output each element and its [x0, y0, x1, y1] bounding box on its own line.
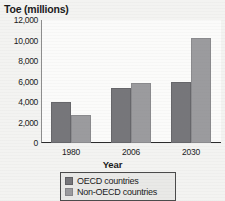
bar-group — [171, 20, 211, 143]
legend-item-oecd: OECD countries — [65, 175, 171, 186]
bar-group — [111, 20, 151, 143]
cropped-caption-sliver — [70, 0, 200, 2]
y-tick-label: 10,000 — [0, 36, 38, 46]
non-oecd-swatch-icon — [65, 188, 73, 196]
y-tick-label: 0 — [0, 138, 38, 148]
x-axis-title: Year — [0, 159, 225, 170]
y-tick-label: 8,000 — [0, 56, 38, 66]
y-tick-label: 2,000 — [0, 118, 38, 128]
x-tick-label: 2006 — [122, 147, 140, 157]
bar-oecd — [51, 102, 71, 143]
legend-label-non-oecd: Non-OECD countries — [77, 187, 157, 197]
bar-oecd — [171, 82, 191, 144]
legend-item-non-oecd: Non-OECD countries — [65, 186, 171, 197]
legend-label-oecd: OECD countries — [77, 176, 139, 186]
oecd-swatch-icon — [65, 177, 73, 185]
y-tick-label: 4,000 — [0, 97, 38, 107]
bar-non-oecd — [71, 115, 91, 143]
bar-non-oecd — [131, 83, 151, 143]
y-axis-title: Toe (millions) — [4, 3, 69, 15]
chart-legend: OECD countries Non-OECD countries — [60, 172, 176, 201]
x-tick-label: 2030 — [182, 147, 200, 157]
bar-chart: Toe (millions) 12,00010,0008,0006,0004,0… — [0, 0, 225, 201]
bar-group — [51, 20, 91, 143]
x-tick-label: 1980 — [62, 147, 80, 157]
y-tick-label: 12,000 — [0, 15, 38, 25]
y-tick-label: 6,000 — [0, 77, 38, 87]
bar-oecd — [111, 88, 131, 143]
bar-non-oecd — [191, 38, 211, 143]
